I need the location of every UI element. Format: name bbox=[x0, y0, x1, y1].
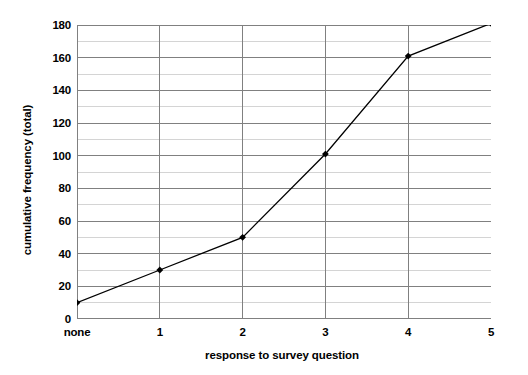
y-tick-label: 80 bbox=[31, 182, 71, 194]
y-tick-label: 60 bbox=[31, 215, 71, 227]
y-tick-label: 20 bbox=[31, 280, 71, 292]
data-markers bbox=[77, 25, 491, 306]
plot-area bbox=[77, 25, 491, 319]
cumulative-frequency-chart: cumulative frequency (total) 02040608010… bbox=[0, 0, 528, 375]
y-tick-label: 180 bbox=[31, 19, 71, 31]
y-tick-label: 40 bbox=[31, 248, 71, 260]
x-tick-label: 5 bbox=[456, 325, 526, 339]
x-tick-label: 4 bbox=[373, 325, 443, 339]
x-axis-tick-labels: none12345 bbox=[77, 325, 491, 343]
x-tick-label: 1 bbox=[125, 325, 195, 339]
x-tick-label: none bbox=[42, 325, 112, 339]
x-axis-title: response to survey question bbox=[72, 349, 492, 361]
y-axis-tick-labels: 020406080100120140160180 bbox=[27, 25, 71, 319]
y-tick-label: 120 bbox=[31, 117, 71, 129]
data-line bbox=[77, 25, 491, 303]
y-tick-label: 140 bbox=[31, 84, 71, 96]
y-tick-label: 160 bbox=[31, 52, 71, 64]
x-tick-label: 3 bbox=[290, 325, 360, 339]
y-tick-label: 100 bbox=[31, 150, 71, 162]
x-tick-label: 2 bbox=[208, 325, 278, 339]
chart-canvas bbox=[77, 25, 491, 319]
y-tick-label: 0 bbox=[31, 313, 71, 325]
minor-gridlines bbox=[77, 41, 491, 302]
